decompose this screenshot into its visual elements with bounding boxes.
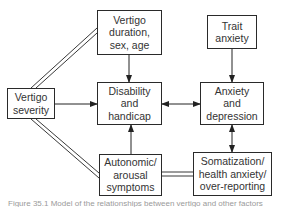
node-trait-anxiety: Trait anxiety bbox=[207, 15, 257, 49]
node-label: Vertigo duration, sex, age bbox=[109, 14, 150, 52]
node-disability-handicap: Disability and handicap bbox=[97, 82, 162, 125]
node-vertigo-duration: Vertigo duration, sex, age bbox=[97, 10, 162, 55]
node-label: Somatization/ health anxiety/ over-repor… bbox=[199, 155, 267, 193]
node-anxiety-depression: Anxiety and depression bbox=[200, 82, 264, 125]
edge-severity-autonomic-association bbox=[31, 119, 99, 178]
edge-severity-duration-association bbox=[31, 28, 97, 88]
node-label: Anxiety and depression bbox=[206, 85, 257, 123]
node-somatization: Somatization/ health anxiety/ over-repor… bbox=[193, 152, 272, 196]
node-label: Autonomic/ arousal symptoms bbox=[104, 156, 157, 194]
node-label: Vertigo severity bbox=[13, 91, 49, 116]
node-label: Disability and handicap bbox=[108, 85, 151, 123]
node-vertigo-severity: Vertigo severity bbox=[7, 88, 55, 119]
node-label: Trait anxiety bbox=[215, 20, 248, 45]
node-autonomic-arousal: Autonomic/ arousal symptoms bbox=[99, 154, 162, 196]
edge-autonomic-somatization-association bbox=[162, 172, 193, 176]
figure-caption: Figure 35.1 Model of the relationships b… bbox=[8, 199, 263, 207]
